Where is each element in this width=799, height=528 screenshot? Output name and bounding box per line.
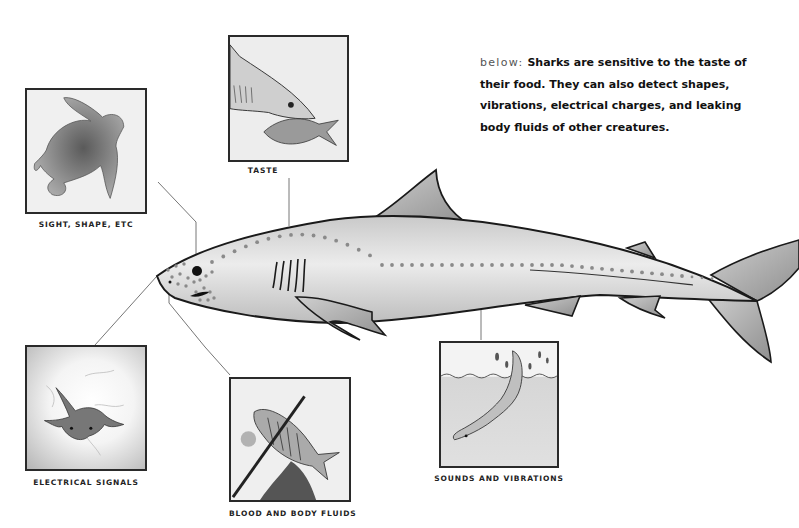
sensory-pore bbox=[691, 275, 694, 278]
sensory-pore bbox=[194, 290, 197, 293]
sensory-pore bbox=[334, 239, 338, 243]
sensory-pore bbox=[550, 263, 554, 267]
sensory-pore bbox=[420, 263, 424, 267]
sensory-pore bbox=[480, 263, 484, 267]
sensory-pore bbox=[186, 276, 189, 279]
sensory-pore bbox=[590, 266, 594, 270]
sensory-pore bbox=[410, 263, 414, 267]
sensory-pore bbox=[670, 273, 674, 277]
sensory-pore bbox=[198, 278, 201, 281]
shark-body bbox=[157, 216, 757, 323]
sensory-pore bbox=[620, 269, 624, 273]
sensory-pore bbox=[390, 263, 394, 267]
sensory-pore bbox=[630, 270, 634, 274]
sensory-pore bbox=[560, 263, 564, 267]
speared-fish-icon bbox=[231, 379, 349, 500]
sensory-pore bbox=[208, 290, 211, 293]
sensory-pore bbox=[440, 263, 444, 267]
sensory-pore bbox=[650, 271, 654, 275]
sensory-pore bbox=[570, 264, 574, 268]
sensory-pore bbox=[323, 236, 327, 240]
label-sounds: SOUNDS AND VIBRATIONS bbox=[432, 474, 566, 483]
sensory-pore bbox=[640, 270, 644, 274]
sensory-pore bbox=[192, 280, 195, 283]
label-electrical: ELECTRICAL SIGNALS bbox=[25, 478, 147, 487]
sensory-pore bbox=[460, 263, 464, 267]
sensory-pore bbox=[450, 263, 454, 267]
sensory-pore bbox=[176, 282, 179, 285]
sensory-pore bbox=[490, 263, 494, 267]
sensory-pore bbox=[198, 298, 201, 301]
sensory-pore bbox=[540, 263, 544, 267]
panel-blood bbox=[229, 377, 351, 502]
turtle-icon bbox=[27, 90, 145, 212]
label-sight: SIGHT, SHAPE, ETC bbox=[25, 220, 147, 229]
anal-fin bbox=[620, 296, 665, 318]
panel-sounds bbox=[439, 341, 559, 468]
sensory-pore bbox=[210, 270, 213, 273]
caption-lead: below: bbox=[480, 56, 523, 69]
sensory-pore bbox=[357, 248, 361, 252]
sensory-pore bbox=[166, 268, 169, 271]
sensory-pore bbox=[244, 244, 248, 248]
sensory-pore bbox=[368, 254, 372, 258]
sensory-pore bbox=[233, 249, 237, 253]
panel-sight bbox=[25, 88, 147, 214]
sensory-pore bbox=[212, 296, 215, 299]
sensory-pore bbox=[520, 263, 524, 267]
sensory-pore bbox=[184, 284, 187, 287]
sensory-pore bbox=[178, 272, 181, 275]
splashing-shark-icon bbox=[441, 343, 557, 466]
sensory-pore bbox=[182, 262, 185, 265]
sensory-pore bbox=[221, 255, 225, 259]
panel-taste bbox=[228, 35, 349, 162]
sensory-pore bbox=[510, 263, 514, 267]
sensory-pore bbox=[711, 277, 714, 280]
shark-biting-fish-icon bbox=[230, 37, 347, 160]
sensory-pore bbox=[680, 274, 684, 278]
sensory-pore bbox=[580, 265, 584, 269]
sensory-pore bbox=[255, 240, 259, 244]
sensory-pore bbox=[278, 234, 282, 238]
ray-icon bbox=[27, 347, 145, 469]
sensory-pore bbox=[210, 260, 214, 264]
leader-line-sight bbox=[158, 182, 196, 262]
sensory-pore bbox=[380, 263, 384, 267]
sensory-pore bbox=[500, 263, 504, 267]
shark-eye bbox=[192, 266, 202, 276]
caption: below:Sharks are sensitive to the taste … bbox=[480, 52, 770, 138]
sensory-pore bbox=[346, 243, 350, 247]
sensory-pore bbox=[300, 233, 304, 237]
sensory-pore bbox=[312, 234, 316, 238]
leader-line-electrical bbox=[95, 276, 157, 345]
sensory-pore bbox=[204, 274, 207, 277]
sensory-pore bbox=[170, 275, 173, 278]
label-taste: TASTE bbox=[228, 166, 298, 175]
panel-electrical bbox=[25, 345, 147, 471]
sensory-pore bbox=[289, 233, 293, 237]
sensory-pore bbox=[400, 263, 404, 267]
label-blood: BLOOD AND BODY FLUIDS bbox=[229, 509, 351, 518]
sensory-pore bbox=[470, 263, 474, 267]
sensory-pore bbox=[206, 298, 209, 301]
sensory-pore bbox=[202, 286, 205, 289]
caudal-fin-lower bbox=[706, 296, 771, 362]
sensory-pore bbox=[174, 264, 177, 267]
sensory-pore bbox=[267, 237, 271, 241]
sensory-pore bbox=[530, 263, 534, 267]
sensory-pore bbox=[701, 276, 704, 279]
sensory-pore bbox=[610, 268, 614, 272]
sensory-pore bbox=[430, 263, 434, 267]
sensory-pore bbox=[600, 267, 604, 271]
shark-nostril bbox=[169, 281, 172, 284]
sensory-pore bbox=[660, 272, 664, 276]
